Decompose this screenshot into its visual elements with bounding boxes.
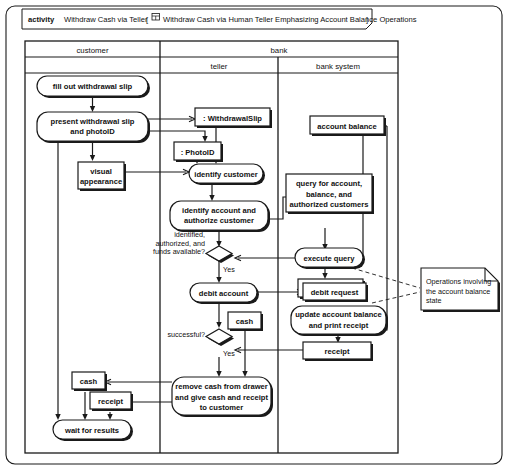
uml-activity-diagram: activity Withdraw Cash via Teller [ With…	[0, 0, 510, 475]
object-cash-customer[interactable]: cash	[72, 372, 107, 391]
action-remove-cash-from-drawer[interactable]: remove cash from drawer and give cash an…	[172, 377, 273, 417]
object-label-line1: visual	[90, 167, 112, 176]
guard-label-line3: funds available?	[153, 247, 205, 256]
object-visual-appearance[interactable]: visual appearance	[78, 162, 126, 191]
action-label-line1: present withdrawal slip	[51, 117, 135, 126]
action-label: identify customer	[194, 170, 257, 179]
action-label-line2: and give cash and receipt	[175, 393, 268, 402]
action-label-line3: to customer	[200, 403, 244, 412]
object-label: : WithdrawalSlip	[203, 114, 262, 123]
action-wait-for-results[interactable]: wait for results	[53, 420, 133, 441]
object-label: cash	[236, 317, 254, 326]
swimlane-header-teller: teller	[211, 62, 228, 71]
activity-diagram-canvas: activity Withdraw Cash via Teller [ With…	[0, 0, 510, 475]
note-line2: the account balance	[426, 287, 490, 296]
action-label-line2: authorize customer	[184, 216, 254, 225]
object-label: receipt	[98, 397, 123, 406]
object-label-line3: authorized customers	[290, 200, 369, 209]
object-debit-request[interactable]: debit request	[303, 283, 368, 302]
action-update-account-balance[interactable]: update account balance and print receipt	[291, 306, 388, 336]
object-label: account balance	[317, 122, 377, 131]
note-line3: state	[426, 296, 442, 305]
action-label: execute query	[303, 254, 355, 263]
action-fill-out-withdrawal-slip[interactable]: fill out withdrawal slip	[37, 76, 150, 98]
object-receipt-customer[interactable]: receipt	[90, 392, 133, 411]
note-line1: Operations involving	[426, 277, 491, 286]
object-label-line2: appearance	[80, 177, 122, 186]
object-label-line2: balance, and	[306, 190, 352, 199]
object-label-line1: query for account,	[296, 179, 362, 188]
object-query-for-account[interactable]: query for account, balance, and authoriz…	[286, 174, 374, 214]
action-label-line1: update account balance	[295, 310, 382, 319]
action-identify-customer[interactable]: identify customer	[189, 164, 265, 185]
object-label: : PhotoID	[181, 148, 215, 157]
object-photo-id[interactable]: : PhotoID	[174, 142, 223, 162]
swimlane-header-bank-system: bank system	[316, 62, 360, 71]
action-label-line2: and print receipt	[309, 321, 369, 330]
diagram-frame-icon	[152, 14, 160, 21]
object-cash-teller[interactable]: cash	[228, 312, 263, 331]
object-label: receipt	[325, 347, 350, 356]
action-debit-account[interactable]: debit account	[190, 283, 259, 304]
object-account-balance[interactable]: account balance	[310, 116, 386, 136]
action-label-line1: remove cash from drawer	[175, 382, 267, 391]
action-label: debit account	[199, 289, 249, 298]
guard-label-successful: successful?	[167, 330, 205, 339]
action-identify-account-and-authorize-customer[interactable]: identify account and authorize customer	[170, 201, 270, 232]
action-label-line2: and photoID	[70, 127, 115, 136]
guard-label-yes-1: Yes	[223, 265, 235, 274]
action-execute-query[interactable]: execute query	[295, 248, 365, 269]
object-withdrawal-slip[interactable]: : WithdrawalSlip	[195, 108, 272, 128]
action-label: fill out withdrawal slip	[53, 82, 133, 91]
swimlane-header-bank: bank	[271, 46, 288, 55]
object-receipt-system[interactable]: receipt	[303, 342, 373, 361]
object-label: debit request	[311, 288, 359, 297]
frame-keyword: activity	[28, 15, 55, 24]
frame-name: Withdraw Cash via Teller	[64, 15, 148, 24]
action-label: wait for results	[64, 426, 119, 435]
swimlane-header-customer: customer	[76, 46, 108, 55]
frame-diagram-title: Withdraw Cash via Human Teller Emphasizi…	[163, 15, 417, 24]
note-operations-involving-account-balance[interactable]: Operations involving the account balance…	[421, 268, 500, 312]
action-present-withdrawal-slip-and-photoid[interactable]: present withdrawal slip and photoID	[37, 112, 150, 143]
frame-bracket-close: ]	[366, 15, 368, 24]
action-label-line1: identify account and	[182, 206, 256, 215]
guard-label-yes-2: Yes	[223, 349, 235, 358]
object-label: cash	[80, 377, 98, 386]
